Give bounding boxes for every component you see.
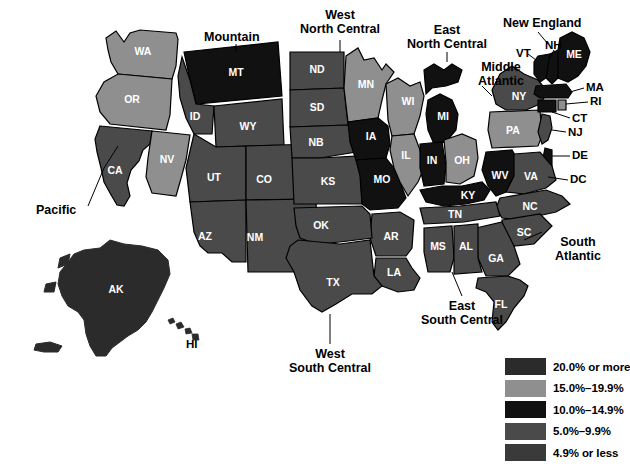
legend-row[interactable]: 15.0%–19.9% [505, 378, 627, 400]
state-label-MI: MI [437, 110, 449, 122]
legend-label: 15.0%–19.9% [553, 382, 624, 394]
region-label-middle-atlantic-line1: Middle [470, 61, 532, 75]
state-label-PA: PA [506, 124, 520, 136]
callout-label-RI: RI [590, 95, 602, 107]
region-east-north-central [386, 64, 478, 196]
state-label-ND: ND [309, 63, 325, 75]
legend-swatch [505, 423, 546, 440]
region-label-east-south-central: East South Central [396, 300, 528, 327]
legend-label: 10.0%–14.9% [553, 404, 624, 416]
legend-row[interactable]: 10.0%–14.9% [505, 399, 627, 421]
legend-label: 4.9% or less [553, 447, 618, 459]
state-MI[interactable] [424, 64, 462, 144]
legend-swatch [505, 380, 546, 397]
state-label-ME: ME [566, 48, 582, 60]
state-label-SC: SC [517, 226, 532, 238]
state-label-CO: CO [256, 173, 272, 185]
region-label-west-south-central-line1: West [264, 348, 396, 362]
callout-label-NJ: NJ [568, 126, 583, 138]
state-HI[interactable] [168, 318, 199, 340]
legend-row[interactable]: 20.0% or more [505, 356, 627, 378]
state-label-TN: TN [448, 208, 462, 220]
region-label-east-north-central: East North Central [407, 24, 487, 51]
state-label-OK: OK [313, 219, 329, 231]
region-label-west-south-central: West South Central [264, 348, 396, 375]
region-label-middle-atlantic-line2: Atlantic [470, 75, 532, 89]
state-label-IL: IL [401, 149, 411, 161]
region-label-east-south-central-line1: East [396, 300, 528, 314]
callout-label-VT: VT [516, 47, 531, 59]
callout-label-DE: DE [572, 149, 588, 161]
state-label-UT: UT [207, 171, 222, 183]
region-label-mountain: Mountain [204, 31, 260, 45]
leader-MA [570, 88, 584, 92]
state-WI[interactable] [386, 78, 424, 136]
state-RI[interactable] [558, 100, 566, 110]
leader-east-south-central [452, 272, 462, 296]
region-label-pacific: Pacific [36, 204, 76, 218]
legend-label: 5.0%–9.9% [553, 425, 611, 437]
state-label-GA: GA [488, 252, 504, 264]
region-label-west-south-central-line2: South Central [264, 362, 396, 376]
state-label-CA: CA [107, 164, 123, 176]
state-label-IN: IN [427, 154, 438, 166]
leader-RI [566, 102, 588, 104]
state-label-KS: KS [321, 175, 336, 187]
us-choropleth-map: WA OR CA NV ID MT WY UT CO AZ NM ND SD N… [0, 0, 630, 474]
legend: 20.0% or more 15.0%–19.9% 10.0%–14.9% 5.… [505, 356, 627, 464]
region-label-west-north-central-line2: North Central [300, 23, 380, 37]
region-label-south-atlantic: South Atlantic [544, 236, 612, 263]
state-label-NB: NB [308, 136, 324, 148]
state-label-AK: AK [108, 283, 124, 295]
state-label-WY: WY [240, 120, 257, 132]
state-label-ID: ID [190, 110, 201, 122]
state-CA[interactable] [95, 126, 152, 206]
legend-swatch [505, 358, 546, 375]
region-alaska-hawaii [34, 240, 199, 356]
region-label-west-north-central: West North Central [300, 9, 380, 36]
state-label-NC: NC [522, 200, 538, 212]
legend-label: 20.0% or more [553, 361, 630, 373]
state-label-MT: MT [228, 66, 244, 78]
state-MA[interactable] [534, 84, 572, 98]
callout-label-MA: MA [586, 81, 604, 93]
region-west-north-central [290, 48, 406, 210]
state-label-LA: LA [387, 266, 401, 278]
region-new-england [534, 32, 590, 112]
region-label-east-north-central-line2: North Central [407, 38, 487, 52]
state-label-KY: KY [461, 189, 476, 201]
region-west-south-central [286, 206, 420, 312]
legend-row[interactable]: 4.9% or less [505, 442, 627, 464]
state-label-MN: MN [358, 78, 374, 90]
state-label-OH: OH [454, 154, 470, 166]
state-AK[interactable] [34, 240, 170, 356]
state-label-VA: VA [524, 170, 538, 182]
state-label-MS: MS [430, 240, 446, 252]
state-label-NY: NY [512, 90, 527, 102]
callout-label-DC: DC [570, 173, 587, 185]
callout-label-CT: CT [572, 112, 587, 124]
region-label-east-north-central-line1: East [407, 24, 487, 38]
state-label-AZ: AZ [198, 230, 213, 242]
state-label-WV: WV [492, 169, 509, 181]
state-label-SD: SD [310, 101, 325, 113]
region-label-east-south-central-line2: South Central [396, 314, 528, 328]
state-label-MO: MO [374, 173, 391, 185]
state-label-TX: TX [326, 276, 339, 288]
region-label-south-atlantic-line2: Atlantic [544, 250, 612, 264]
legend-swatch [505, 444, 546, 461]
region-label-south-atlantic-line1: South [544, 236, 612, 250]
callout-label-HI: HI [186, 338, 198, 350]
state-label-IA: IA [366, 130, 377, 142]
region-label-west-north-central-line1: West [300, 9, 380, 23]
state-label-WA: WA [135, 45, 152, 57]
legend-row[interactable]: 5.0%–9.9% [505, 421, 627, 443]
region-label-new-england: New England [503, 17, 581, 31]
callout-label-NH: NH [545, 39, 562, 51]
state-CT[interactable] [538, 100, 556, 112]
state-label-NM: NM [247, 231, 264, 243]
legend-swatch [505, 401, 546, 418]
state-OK[interactable] [294, 206, 372, 244]
state-label-OR: OR [124, 93, 140, 105]
state-label-NV: NV [160, 153, 175, 165]
